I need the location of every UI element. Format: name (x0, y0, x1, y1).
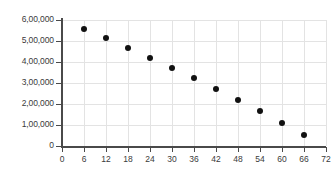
gridline-vertical (128, 20, 129, 146)
y-axis-tick (56, 41, 62, 42)
x-axis-tick-label: 66 (293, 154, 315, 164)
x-axis-tick (282, 147, 283, 152)
data-point (81, 26, 87, 32)
data-point (301, 132, 307, 138)
plot-area (62, 20, 326, 146)
x-axis-tick-label: 48 (227, 154, 249, 164)
y-axis-tick (56, 62, 62, 63)
x-axis-tick (326, 147, 327, 152)
data-point (257, 108, 263, 114)
gridline-vertical (326, 20, 327, 146)
gridline-vertical (84, 20, 85, 146)
y-axis-tick-label: 3,00,000 (0, 78, 54, 87)
gridline-vertical (282, 20, 283, 146)
x-axis-tick (260, 147, 261, 152)
x-axis-tick-label: 6 (73, 154, 95, 164)
x-axis-tick (106, 147, 107, 152)
data-point (191, 75, 197, 81)
gridline-vertical (150, 20, 151, 146)
gridline-vertical (216, 20, 217, 146)
gridline-vertical (172, 20, 173, 146)
y-axis-tick-label: 0 (0, 141, 54, 150)
data-point (125, 45, 131, 51)
x-axis-tick (194, 147, 195, 152)
gridline-vertical (194, 20, 195, 146)
x-axis-tick (304, 147, 305, 152)
x-axis-tick (216, 147, 217, 152)
x-axis-tick-label: 24 (139, 154, 161, 164)
x-axis-tick-label: 60 (271, 154, 293, 164)
y-axis-tick-labels: 01,00,0002,00,0003,00,0004,00,0005,00,00… (0, 0, 54, 176)
y-axis-tick (56, 83, 62, 84)
y-axis-tick (56, 104, 62, 105)
x-axis-tick (172, 147, 173, 152)
x-axis-tick-label: 12 (95, 154, 117, 164)
x-axis-tick (84, 147, 85, 152)
x-axis-tick-label: 72 (315, 154, 335, 164)
gridline-vertical (260, 20, 261, 146)
data-point (213, 86, 219, 92)
x-axis-tick (128, 147, 129, 152)
data-point (235, 97, 241, 103)
x-axis-tick-label: 42 (205, 154, 227, 164)
y-axis-tick-label: 5,00,000 (0, 36, 54, 45)
data-point (169, 65, 175, 71)
gridline-vertical (238, 20, 239, 146)
y-axis-tick-label: 2,00,000 (0, 99, 54, 108)
y-axis-tick-label: 1,00,000 (0, 120, 54, 129)
x-axis-tick-label: 36 (183, 154, 205, 164)
data-point (147, 55, 153, 61)
x-axis-tick (238, 147, 239, 152)
x-axis-tick-label: 0 (51, 154, 73, 164)
y-axis-tick-label: 4,00,000 (0, 57, 54, 66)
y-axis-tick (56, 125, 62, 126)
gridline-vertical (304, 20, 305, 146)
x-axis-tick (62, 147, 63, 152)
x-axis-tick-label: 54 (249, 154, 271, 164)
y-axis-tick-label: 6,00,000 (0, 15, 54, 24)
x-axis-tick-label: 30 (161, 154, 183, 164)
x-axis-tick-label: 18 (117, 154, 139, 164)
x-axis-tick (150, 147, 151, 152)
y-axis-tick (56, 20, 62, 21)
data-point (279, 120, 285, 126)
